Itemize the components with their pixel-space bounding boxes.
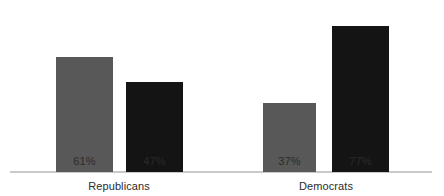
category-axis-labels: Republicans Democrats xyxy=(0,172,444,196)
bar-value-label: 77% xyxy=(349,155,371,167)
category-label-democrats: Democrats xyxy=(299,180,353,193)
bar-value-label: 47% xyxy=(143,155,165,167)
bar-value-label: 61% xyxy=(73,155,95,167)
bar-rect xyxy=(332,26,389,172)
plot-area: 61% 47% 37% 77% xyxy=(0,0,444,172)
bar-chart: 61% 47% 37% 77% Republicans Democrats xyxy=(0,0,444,196)
category-label-republicans: Republicans xyxy=(88,180,150,193)
bar-value-label: 37% xyxy=(278,155,300,167)
